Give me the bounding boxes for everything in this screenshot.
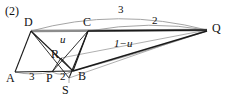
vertex-label-b: B [78, 70, 86, 82]
vertex-label-r: R [51, 48, 59, 60]
segment-one-minus-u-label: 1−u [114, 38, 132, 49]
segment-pb-length-label: 2 [60, 71, 66, 82]
vertex-label-d: D [24, 16, 33, 28]
vertex-label-q: Q [212, 22, 221, 34]
edge-d-to-a [15, 31, 31, 72]
vertex-label-c: C [83, 16, 91, 28]
segment-u-label: u [60, 34, 66, 45]
edge-b-to-q-thick [73, 31, 207, 71]
vertex-label-p: P [46, 72, 53, 84]
edge-c-to-q-thick [88, 30, 207, 31]
arc-dq-length-label: 3 [118, 4, 124, 15]
geometry-figure: (2) D C Q A P B R S 3 2 u 1−u 3 2 [0, 0, 227, 96]
vertex-label-a: A [6, 72, 15, 84]
arc-cq-length-label: 2 [152, 15, 158, 26]
segment-ap-length-label: 3 [29, 71, 35, 82]
figure-number-label: (2) [5, 5, 19, 17]
vertex-label-s: S [62, 84, 69, 96]
